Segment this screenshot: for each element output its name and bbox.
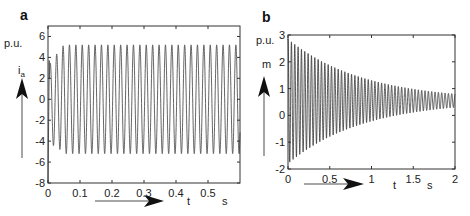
modulation-waveform [288, 39, 455, 162]
y-tick-label: 3 [279, 29, 285, 41]
y-tick-label: -1 [275, 136, 285, 148]
y-tick-label: -2 [35, 114, 45, 126]
y-tick-label: -8 [35, 177, 45, 189]
panel-a-label: a [20, 7, 28, 23]
y-tick-label: 6 [39, 30, 45, 42]
y-tick-label: -2 [275, 163, 285, 175]
x-tick-label: 0 [285, 173, 291, 185]
plot-frame-a [48, 26, 240, 183]
xunit-b: s [427, 179, 433, 191]
x-tick-label: 1 [368, 173, 374, 185]
x-tick-label: 0.5 [200, 187, 215, 199]
xlabel-b: t [393, 179, 396, 191]
unit-label-a: p.u. [4, 37, 22, 49]
y-arrow-b-icon [258, 76, 270, 156]
chart-b: 00.511.52-2-10123 p.u. m t s [256, 29, 458, 191]
x-tick-label: 0.5 [322, 173, 337, 185]
y-tick-label: 1 [279, 83, 285, 95]
x-tick-label: 0.2 [104, 187, 119, 199]
ylabel-a-sub: a [20, 70, 25, 79]
y-tick-label: -6 [35, 156, 45, 168]
y-tick-label: 0 [39, 93, 45, 105]
x-tick-label: 1.5 [406, 173, 421, 185]
figure: a b 00.10.20.30.40.5-8-6-4-20246 p.u. ia… [0, 0, 470, 216]
y-tick-label: 4 [39, 51, 45, 63]
y-tick-label: -4 [35, 135, 45, 147]
y-arrow-a-icon [16, 78, 28, 158]
chart-a: 00.10.20.30.40.5-8-6-4-20246 p.u. ia t s [4, 26, 240, 207]
xunit-a: s [222, 195, 228, 207]
y-tick-label: 2 [39, 72, 45, 84]
current-waveform [48, 45, 240, 183]
panel-b-label: b [262, 9, 271, 25]
x-tick-label: 0.1 [72, 187, 87, 199]
x-tick-label: 0 [45, 187, 51, 199]
xlabel-a: t [187, 195, 190, 207]
ylabel-b: m [262, 58, 271, 70]
y-tick-label: 0 [279, 109, 285, 121]
x-tick-label: 2 [452, 173, 458, 185]
ylabel-a: ia [18, 64, 25, 79]
y-tick-label: 2 [279, 56, 285, 68]
unit-label-b: p.u. [256, 34, 274, 46]
x-tick-label: 0.4 [168, 187, 183, 199]
plot-frame-b [288, 35, 455, 169]
